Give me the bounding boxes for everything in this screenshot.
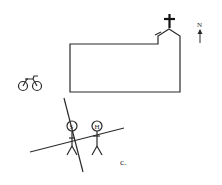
bicycle-icon — [19, 76, 42, 91]
diagram-canvas: N S H c. — [0, 0, 222, 185]
sight-line-steep — [64, 98, 83, 172]
caption-label: c. — [120, 157, 126, 167]
cross-icon — [164, 14, 175, 28]
person-s-label: S — [70, 123, 74, 131]
north-arrow-icon: N — [197, 21, 203, 43]
church-outline — [70, 29, 180, 92]
compass-label: N — [197, 21, 202, 29]
person-h-label: H — [95, 123, 100, 131]
